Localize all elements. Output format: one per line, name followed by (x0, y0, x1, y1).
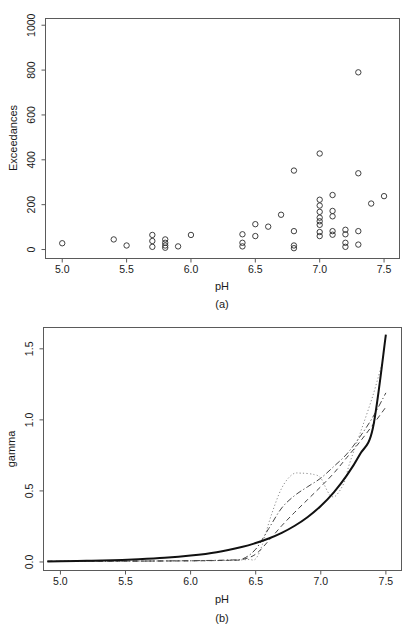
scatter-point (381, 193, 386, 198)
x-tick-label: 6.5 (248, 263, 263, 275)
x-tick-label: 5.0 (53, 575, 68, 587)
x-tick-label: 7.0 (313, 575, 328, 587)
curve-dash-dot (47, 393, 385, 561)
scatter-plot-exceedances-vs-ph: 5.05.56.06.57.07.5 02004006008001000 pH … (0, 0, 413, 315)
scatter-point (240, 244, 245, 249)
panel-b-curves: 5.05.56.06.57.07.5 0.00.51.01.5 pH gamma… (0, 315, 413, 630)
axis-ticks-a (42, 25, 385, 262)
x-tick-labels-b: 5.05.56.06.57.07.5 (53, 575, 393, 587)
scatter-point (317, 151, 322, 156)
x-tick-label: 6.5 (248, 575, 263, 587)
scatter-point (317, 209, 322, 214)
scatter-point (240, 232, 245, 237)
line-plot-gamma-vs-ph: 5.05.56.06.57.07.5 0.00.51.01.5 pH gamma… (0, 315, 413, 630)
y-tick-label: 0.0 (23, 555, 35, 570)
scatter-point (266, 224, 271, 229)
y-tick-label: 1.5 (23, 341, 35, 356)
x-tick-label: 5.0 (55, 263, 70, 275)
x-tick-label: 7.5 (379, 575, 394, 587)
curve-solid (47, 335, 385, 562)
curve-group (47, 335, 385, 562)
scatter-point (317, 222, 322, 227)
scatter-point (317, 197, 322, 202)
y-tick-label: 800 (25, 61, 37, 79)
y-tick-label: 0.5 (23, 483, 35, 498)
scatter-point (356, 242, 361, 247)
scatter-point (330, 232, 335, 237)
scatter-point (278, 212, 283, 217)
x-axis-title-b: pH (215, 593, 229, 605)
scatter-point (188, 232, 193, 237)
scatter-point (317, 203, 322, 208)
scatter-point (253, 233, 258, 238)
scatter-point (60, 241, 65, 246)
x-tick-labels-a: 5.05.56.06.57.07.5 (55, 263, 392, 275)
scatter-point (291, 228, 296, 233)
scatter-point (253, 221, 258, 226)
scatter-point (330, 208, 335, 213)
x-tick-label: 5.5 (118, 575, 133, 587)
plot-frame-a (46, 19, 400, 259)
scatter-point (330, 214, 335, 219)
scatter-point (317, 233, 322, 238)
scatter-point (150, 244, 155, 249)
scatter-points-group (60, 70, 387, 251)
y-tick-labels-b: 0.00.51.01.5 (23, 341, 35, 569)
scatter-point (150, 232, 155, 237)
scatter-point (330, 192, 335, 197)
scatter-point (356, 228, 361, 233)
y-tick-label: 0 (25, 246, 37, 252)
scatter-point (111, 237, 116, 242)
scatter-point (343, 244, 348, 249)
scatter-point (356, 70, 361, 75)
curve-dotted (47, 359, 383, 562)
scatter-point (150, 238, 155, 243)
y-tick-label: 1000 (25, 13, 37, 37)
plot-frame-b (44, 328, 402, 571)
x-tick-label: 7.0 (312, 263, 327, 275)
curve-dashed (47, 407, 385, 561)
scatter-point (356, 171, 361, 176)
panel-a-scatter: 5.05.56.06.57.07.5 02004006008001000 pH … (0, 0, 413, 315)
scatter-point (368, 201, 373, 206)
y-tick-label: 600 (25, 106, 37, 124)
scatter-point (175, 244, 180, 249)
figure-container: 5.05.56.06.57.07.5 02004006008001000 pH … (0, 0, 413, 630)
y-axis-title-a: Exceedances (7, 104, 19, 171)
y-tick-label: 400 (25, 151, 37, 169)
y-axis-title-b: gamma (5, 430, 17, 468)
y-tick-labels-a: 02004006008001000 (25, 13, 37, 252)
x-tick-label: 6.0 (183, 575, 198, 587)
panel-label-b: (b) (215, 612, 228, 624)
scatter-point (291, 168, 296, 173)
panel-label-a: (a) (215, 298, 228, 310)
axis-ticks-b (40, 349, 386, 575)
scatter-point (124, 243, 129, 248)
x-tick-label: 7.5 (377, 263, 392, 275)
x-axis-title-a: pH (215, 280, 229, 292)
x-tick-label: 5.5 (119, 263, 134, 275)
x-tick-label: 6.0 (184, 263, 199, 275)
y-tick-label: 1.0 (23, 412, 35, 427)
y-tick-label: 200 (25, 196, 37, 214)
